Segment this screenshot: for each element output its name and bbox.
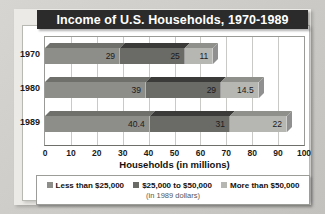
- chart-title: Income of U.S. Households, 1970-1989: [56, 13, 288, 27]
- bar-segment: 29: [45, 48, 120, 64]
- legend-swatch-icon: [47, 182, 53, 188]
- bar-segment: 22: [230, 116, 287, 132]
- legend-swatch-icon: [133, 182, 139, 188]
- legend-items: Less than $25,000$25,000 to $50,000More …: [37, 179, 309, 191]
- bar-value-label: 40.4: [128, 119, 145, 129]
- bar-value-label: 29: [207, 85, 216, 95]
- bar-row: 198940.43122: [45, 108, 304, 136]
- legend-item[interactable]: $25,000 to $50,000: [133, 181, 212, 190]
- bar-value-label: 29: [106, 51, 115, 61]
- bar-segment: 40.4: [45, 116, 150, 132]
- chart-legend: Less than $25,000$25,000 to $50,000More …: [36, 175, 310, 205]
- bar-segment: 31: [150, 116, 230, 132]
- bar-segment: 11: [185, 48, 213, 64]
- bar-value-label: 11: [200, 51, 209, 61]
- bar-end-face: [287, 111, 292, 132]
- bar-value-label: 14.5: [237, 85, 254, 95]
- bar-segment: 14.5: [221, 82, 259, 98]
- bar-value-label: 25: [170, 51, 179, 61]
- category-label: 1980: [20, 83, 40, 93]
- bar-value-label: 31: [215, 119, 224, 129]
- category-label: 1989: [20, 117, 40, 127]
- bar-end-face: [259, 77, 264, 98]
- legend-label: $25,000 to $50,000: [142, 181, 212, 190]
- bar-row: 1980392914.5: [45, 74, 304, 102]
- chart-title-bar: Income of U.S. Households, 1970-1989: [37, 10, 308, 29]
- bar-segment: 39: [45, 82, 146, 98]
- legend-note: (in 1989 dollars): [37, 191, 309, 200]
- plot-area: 19702925111980392914.5198940.43122: [44, 36, 305, 146]
- bar-value-label: 22: [272, 119, 281, 129]
- bar-value-label: 39: [132, 85, 141, 95]
- legend-label: More than $50,000: [230, 181, 299, 190]
- chart-figure: Income of U.S. Households, 1970-1989 197…: [0, 0, 325, 214]
- bar-segment: 25: [120, 48, 185, 64]
- legend-swatch-icon: [221, 182, 227, 188]
- bar-segment: 29: [146, 82, 221, 98]
- legend-item[interactable]: Less than $25,000: [47, 181, 124, 190]
- legend-item[interactable]: More than $50,000: [221, 181, 299, 190]
- category-label: 1970: [20, 49, 40, 59]
- legend-label: Less than $25,000: [56, 181, 124, 190]
- bar-row: 1970292511: [45, 40, 304, 68]
- bar-end-face: [213, 43, 218, 64]
